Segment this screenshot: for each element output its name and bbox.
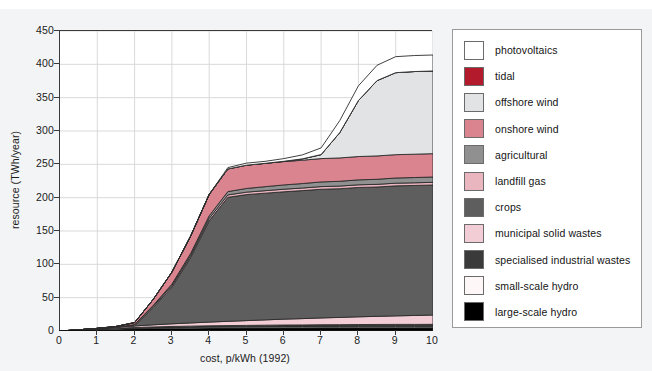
legend-label: crops (495, 201, 521, 213)
legend-label: large-scale hydro (495, 306, 577, 318)
y-tick-label: 450 (36, 24, 54, 36)
legend-swatch (464, 198, 484, 217)
legend-label: landfill gas (495, 175, 546, 187)
legend-swatch (464, 93, 484, 112)
stacked-area-svg (60, 31, 433, 331)
legend-swatch (464, 145, 484, 164)
figure-surface: 050100150200250300350400450 012345678910… (0, 9, 652, 361)
legend-label: agricultural (495, 149, 548, 161)
legend-item[interactable]: onshore wind (453, 116, 641, 142)
y-tick-label: 250 (36, 157, 54, 169)
y-tick-label: 0 (48, 324, 54, 336)
legend-swatch (464, 250, 484, 269)
y-tick-mark (54, 163, 59, 164)
chart-plot: 050100150200250300350400450 012345678910… (59, 30, 432, 330)
legend-label: onshore wind (495, 123, 559, 135)
legend-swatch (464, 172, 484, 191)
legend-label: photovoltaics (495, 44, 558, 56)
chart-legend: photovoltaicstidaloffshore windonshore w… (452, 29, 642, 328)
x-tick-mark (395, 330, 396, 335)
legend-label: offshore wind (495, 96, 559, 108)
legend-swatch (464, 224, 484, 243)
x-tick-label: 6 (280, 334, 286, 346)
x-tick-mark (171, 330, 172, 335)
x-tick-label: 1 (93, 334, 99, 346)
x-tick-label: 4 (205, 334, 211, 346)
y-tick-label: 50 (42, 291, 54, 303)
x-tick-mark (96, 330, 97, 335)
x-tick-mark (320, 330, 321, 335)
y-tick-mark (54, 230, 59, 231)
y-tick-mark (54, 63, 59, 64)
x-tick-label: 2 (131, 334, 137, 346)
legend-item[interactable]: offshore wind (453, 89, 641, 115)
legend-label: municipal solid wastes (495, 227, 602, 239)
legend-item[interactable]: crops (453, 194, 641, 220)
y-tick-label: 150 (36, 224, 54, 236)
legend-item[interactable]: agricultural (453, 142, 641, 168)
y-tick-label: 300 (36, 124, 54, 136)
x-tick-mark (208, 330, 209, 335)
legend-label: specialised industrial wastes (495, 254, 630, 266)
y-tick-label: 100 (36, 257, 54, 269)
x-tick-label: 3 (168, 334, 174, 346)
legend-swatch (464, 276, 484, 295)
legend-swatch (464, 302, 484, 321)
y-tick-mark (54, 97, 59, 98)
area-series (60, 185, 433, 331)
legend-swatch (464, 41, 484, 60)
legend-item[interactable]: municipal solid wastes (453, 220, 641, 246)
y-tick-label: 350 (36, 91, 54, 103)
x-tick-mark (246, 330, 247, 335)
legend-item[interactable]: large-scale hydro (453, 299, 641, 325)
x-tick-mark (283, 330, 284, 335)
x-tick-mark (134, 330, 135, 335)
legend-swatch (464, 67, 484, 86)
legend-item[interactable]: photovoltaics (453, 37, 641, 63)
x-tick-label: 0 (56, 334, 62, 346)
legend-item[interactable]: tidal (453, 63, 641, 89)
x-tick-label: 5 (242, 334, 248, 346)
legend-label: tidal (495, 70, 515, 82)
figure-page: 050100150200250300350400450 012345678910… (0, 0, 652, 371)
y-tick-mark (54, 130, 59, 131)
y-tick-mark (54, 197, 59, 198)
y-tick-label: 400 (36, 57, 54, 69)
plot-area (59, 30, 432, 330)
legend-item[interactable]: specialised industrial wastes (453, 247, 641, 273)
legend-item[interactable]: small-scale hydro (453, 273, 641, 299)
y-tick-label: 200 (36, 191, 54, 203)
x-tick-label: 8 (354, 334, 360, 346)
legend-label: small-scale hydro (495, 280, 578, 292)
x-axis-label: cost, p/kWh (1992) (200, 352, 290, 364)
legend-swatch (464, 119, 484, 138)
y-tick-mark (54, 297, 59, 298)
x-tick-mark (357, 330, 358, 335)
x-tick-label: 9 (392, 334, 398, 346)
legend-item[interactable]: landfill gas (453, 168, 641, 194)
x-tick-label: 7 (317, 334, 323, 346)
y-tick-mark (54, 263, 59, 264)
y-axis-label: resource (TWh/year) (9, 131, 21, 229)
scan-artifact-strip (0, 0, 652, 9)
x-tick-label: 10 (426, 334, 438, 346)
y-tick-mark (54, 30, 59, 31)
